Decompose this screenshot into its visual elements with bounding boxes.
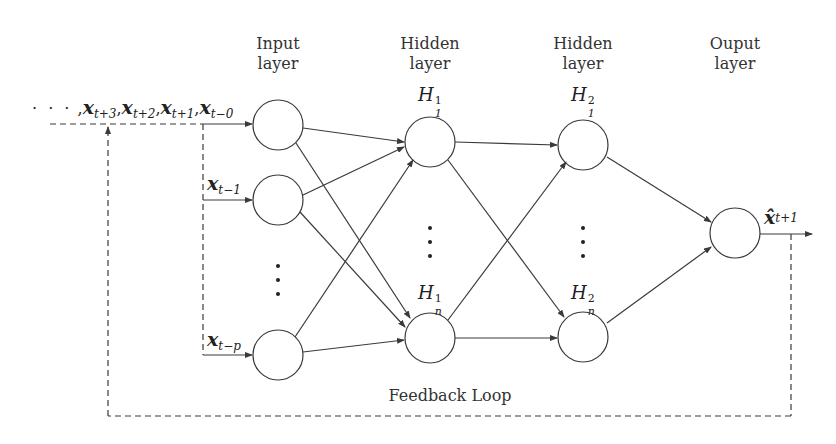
- hidden2-node-1: [558, 120, 608, 170]
- hidden1-node-1: [405, 117, 455, 167]
- hidden1-node-1-label: H11: [418, 84, 442, 105]
- input-x-t-minus-p-label: xt−p: [207, 328, 241, 353]
- input-sequence-label: · · · ,xt+3,xt+2,xt+1,xt−0: [32, 96, 233, 121]
- hidden-layer-1-title: Hiddenlayer: [390, 34, 470, 74]
- input-x-t-minus-1-label: xt−1: [207, 172, 241, 197]
- hidden1-node-n: [405, 313, 455, 363]
- input-node-2: [253, 175, 303, 225]
- hidden2-node-n-label: H2n: [571, 282, 595, 303]
- hidden2-node-1-label: H21: [571, 84, 595, 105]
- input-node-p: [253, 330, 303, 380]
- input-layer-title: Inputlayer: [238, 34, 318, 74]
- output-node: [710, 208, 760, 258]
- hidden2-node-n: [558, 312, 608, 362]
- hidden-layer-2-title: Hiddenlayer: [543, 34, 623, 74]
- output-layer-title: Ouputlayer: [695, 34, 775, 74]
- input-node-1: [253, 100, 303, 150]
- hidden1-node-n-label: H1n: [418, 282, 442, 303]
- feedback-loop-label: Feedback Loop: [370, 386, 530, 406]
- output-x-hat-label: x̂t+1: [764, 206, 798, 228]
